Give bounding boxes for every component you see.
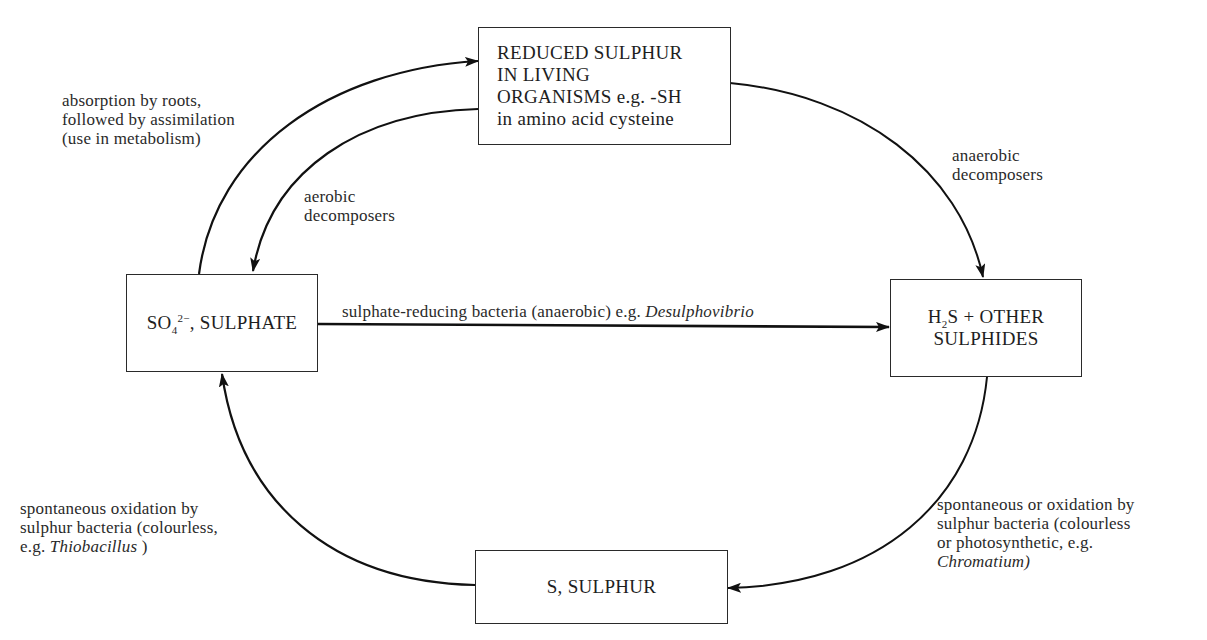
node-reduced-line3: ORGANISMS xyxy=(497,86,612,107)
label-to-sulphate-line2: sulphur bacteria (colourless, xyxy=(20,518,218,537)
arrow-sulphate-reducing xyxy=(317,324,889,327)
label-anaerobic-line1: anaerobic xyxy=(952,146,1043,165)
label-desulphovibrio: Desulphovibrio xyxy=(645,302,754,321)
sulphides-line1: S + OTHER xyxy=(948,306,1045,327)
node-reduced-line1: REDUCED SULPHUR xyxy=(497,42,683,64)
node-sulphur: S, SULPHUR xyxy=(475,550,728,624)
label-to-sulphate-line1: spontaneous oxidation by xyxy=(20,499,218,518)
sulphate-subscript: 4 xyxy=(172,324,178,336)
label-absorption-line3: (use in metabolism) xyxy=(62,129,235,148)
arrow-anaerobic xyxy=(730,83,983,277)
label-anaerobic: anaerobic decomposers xyxy=(952,146,1043,184)
label-to-sulphur-line3: or photosynthetic, e.g. xyxy=(937,533,1135,552)
label-sulphate-reducing: sulphate-reducing bacteria (anaerobic) e… xyxy=(342,302,754,321)
sulphides-line2: SULPHIDES xyxy=(928,328,1045,350)
node-reduced-sulphur: REDUCED SULPHUR IN LIVING ORGANISMS e.g.… xyxy=(478,27,731,145)
label-chromatium: Chromatium) xyxy=(937,552,1135,571)
label-aerobic-line2: decomposers xyxy=(304,206,395,225)
label-thiobacillus: Thiobacillus xyxy=(50,537,137,556)
node-sulphate: SO42−, SULPHATE xyxy=(126,274,318,372)
sulphate-formula: SO xyxy=(147,312,172,333)
label-to-sulphur-line2: sulphur bacteria (colourless xyxy=(937,514,1135,533)
node-sulphides: H2S + OTHER SULPHIDES xyxy=(890,279,1082,377)
label-to-sulphate: spontaneous oxidation by sulphur bacteri… xyxy=(20,499,218,556)
node-reduced-line2: IN LIVING xyxy=(497,64,683,86)
label-to-sulphate-close: ) xyxy=(137,537,147,556)
sulphate-superscript: 2− xyxy=(177,312,189,324)
node-reduced-example: e.g. -SH xyxy=(612,86,682,107)
label-to-sulphur: spontaneous or oxidation by sulphur bact… xyxy=(937,495,1135,571)
label-sulphate-reducing-text: sulphate-reducing bacteria (anaerobic) e… xyxy=(342,302,645,321)
arrow-to-sulphate xyxy=(222,374,475,585)
label-aerobic: aerobic decomposers xyxy=(304,187,395,225)
label-absorption: absorption by roots, followed by assimil… xyxy=(62,91,235,148)
label-aerobic-line1: aerobic xyxy=(304,187,395,206)
label-absorption-line1: absorption by roots, xyxy=(62,91,235,110)
label-to-sulphur-line1: spontaneous or oxidation by xyxy=(937,495,1135,514)
sulphides-formula: H xyxy=(928,306,942,327)
arrow-absorption xyxy=(199,61,478,274)
sulphate-label: , SULPHATE xyxy=(190,312,298,333)
node-reduced-line4: in amino acid cysteine xyxy=(497,108,683,130)
label-to-sulphate-eg: e.g. xyxy=(20,537,50,556)
label-absorption-line2: followed by assimilation xyxy=(62,110,235,129)
label-anaerobic-line2: decomposers xyxy=(952,165,1043,184)
sulphur-label: S, SULPHUR xyxy=(547,576,657,598)
